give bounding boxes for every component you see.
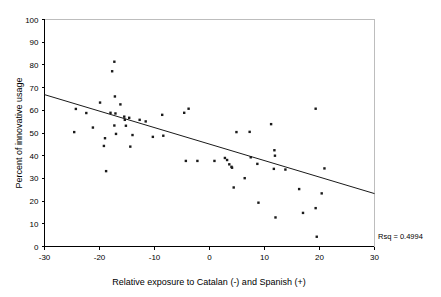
data-point-marker [187, 108, 189, 110]
data-point-marker [270, 123, 272, 125]
data-point-marker [314, 207, 316, 209]
data-point-marker [124, 119, 126, 121]
x-tick-label: 20 [315, 253, 324, 262]
y-tick-label: 60 [30, 106, 39, 115]
data-point-marker [274, 155, 276, 157]
data-point-marker [162, 135, 164, 137]
data-point-marker [284, 168, 286, 170]
data-point-marker [226, 159, 228, 161]
data-point-marker [321, 192, 323, 194]
data-point-marker [105, 170, 107, 172]
data-point-marker [152, 136, 154, 138]
x-axis-title: Relative exposure to Catalan (-) and Spa… [112, 277, 305, 287]
data-point-marker [316, 236, 318, 238]
data-points [73, 61, 326, 238]
data-point-marker [113, 124, 115, 126]
data-point-marker [213, 160, 215, 162]
plot-frame [45, 20, 375, 247]
data-point-marker [114, 112, 116, 114]
data-point-marker [298, 188, 300, 190]
data-point-marker [196, 160, 198, 162]
data-point-marker [323, 167, 325, 169]
x-tick-label: 30 [370, 253, 379, 262]
data-point-marker [113, 61, 115, 63]
data-point-marker [257, 201, 259, 203]
data-point-marker [224, 157, 226, 159]
y-tick-label: 80 [30, 61, 39, 70]
y-tick-label: 90 [30, 38, 39, 47]
data-point-marker [99, 101, 101, 103]
x-tick-label: -10 [149, 253, 161, 262]
y-tick-label: 40 [30, 152, 39, 161]
data-point-marker [235, 131, 237, 133]
x-tick-label: 10 [260, 253, 269, 262]
data-point-marker [248, 131, 250, 133]
data-point-marker [161, 114, 163, 116]
x-tick-label: -30 [39, 253, 51, 262]
y-tick-label: 0 [34, 243, 39, 252]
data-point-marker [125, 125, 127, 127]
data-point-marker [123, 115, 125, 117]
data-point-marker [73, 131, 75, 133]
rsq-annotation: Rsq = 0.4994 [378, 232, 423, 241]
data-point-marker [131, 134, 133, 136]
y-tick-label: 10 [30, 220, 39, 229]
tick-marks [42, 20, 375, 250]
x-tick-label: -20 [94, 253, 106, 262]
data-point-marker [273, 168, 275, 170]
y-tick-label: 30 [30, 174, 39, 183]
data-point-marker [244, 177, 246, 179]
data-point-marker [114, 95, 116, 97]
data-point-marker [75, 108, 77, 110]
data-point-marker [185, 160, 187, 162]
data-point-marker [274, 216, 276, 218]
y-axis-tick-labels: 0102030405060708090100 [25, 16, 39, 252]
data-point-marker [233, 186, 235, 188]
data-point-marker [85, 112, 87, 114]
data-point-marker [92, 126, 94, 128]
y-axis-title: Percent of innovative usage [14, 77, 24, 188]
data-point-marker [183, 112, 185, 114]
data-point-marker [138, 119, 140, 121]
data-point-marker [119, 103, 121, 105]
data-point-marker [256, 163, 258, 165]
regression-line-segment [45, 95, 375, 194]
data-point-marker [129, 145, 131, 147]
x-axis-tick-labels: -30-20-100102030 [39, 253, 380, 262]
regression-line [45, 95, 375, 194]
data-point-marker [128, 117, 130, 119]
data-point-marker [228, 163, 230, 165]
scatter-chart-figure: -30-20-100102030 0102030405060708090100 … [0, 0, 441, 297]
data-point-marker [273, 149, 275, 151]
y-tick-label: 100 [25, 16, 39, 25]
data-point-marker [115, 133, 117, 135]
data-point-marker [314, 108, 316, 110]
data-point-marker [302, 212, 304, 214]
data-point-marker [109, 112, 111, 114]
y-tick-label: 50 [30, 129, 39, 138]
data-point-marker [111, 70, 113, 72]
chart-canvas: -30-20-100102030 0102030405060708090100 … [0, 0, 441, 297]
y-tick-label: 70 [30, 84, 39, 93]
data-point-marker [103, 145, 105, 147]
x-tick-label: 0 [207, 253, 212, 262]
y-tick-label: 20 [30, 197, 39, 206]
data-point-marker [250, 156, 252, 158]
data-point-marker [231, 167, 233, 169]
data-point-marker [145, 120, 147, 122]
data-point-marker [104, 137, 106, 139]
